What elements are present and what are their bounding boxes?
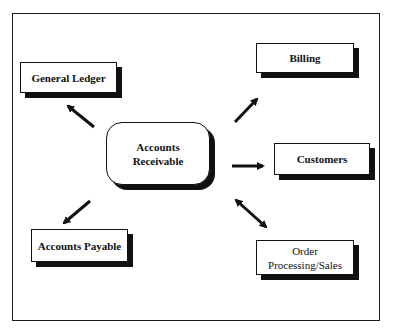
node-label-line2: Processing/Sales xyxy=(268,258,342,272)
node-label: Customers xyxy=(297,152,348,166)
node-general-ledger: General Ledger xyxy=(20,62,117,93)
arrow-to-accounts-payable xyxy=(64,201,90,223)
node-billing: Billing xyxy=(256,43,354,73)
node-label-line2: Receivable xyxy=(133,154,184,168)
node-order-processing-sales: Order Processing/Sales xyxy=(256,240,354,275)
node-label: Billing xyxy=(289,51,320,65)
arrow-to-order-processing xyxy=(236,200,266,227)
node-accounts-payable: Accounts Payable xyxy=(31,229,128,262)
node-label-line1: Order xyxy=(292,244,318,258)
node-label: General Ledger xyxy=(31,71,105,85)
node-accounts-receivable: Accounts Receivable xyxy=(106,122,210,185)
node-label: Accounts Payable xyxy=(38,239,121,253)
arrow-to-general-ledger xyxy=(68,106,94,127)
node-label-line1: Accounts xyxy=(136,140,179,154)
arrow-to-billing xyxy=(235,99,257,122)
node-customers: Customers xyxy=(274,143,370,175)
